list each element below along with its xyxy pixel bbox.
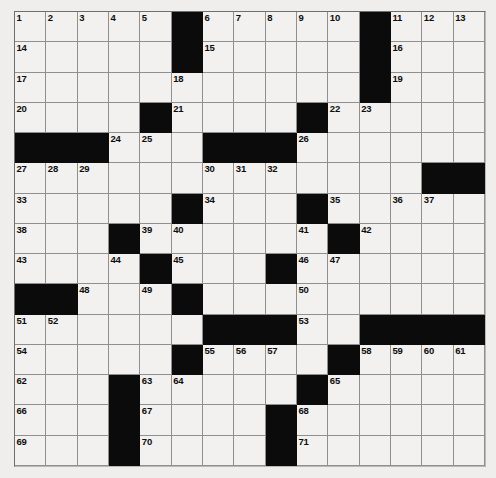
crossword-cell[interactable] bbox=[109, 163, 140, 193]
crossword-cell[interactable] bbox=[109, 73, 140, 103]
crossword-cell[interactable] bbox=[78, 42, 109, 72]
crossword-cell[interactable] bbox=[328, 315, 359, 345]
crossword-cell[interactable] bbox=[203, 254, 234, 284]
crossword-cell[interactable] bbox=[391, 284, 422, 314]
crossword-cell[interactable] bbox=[328, 42, 359, 72]
crossword-cell[interactable]: 60 bbox=[422, 345, 453, 375]
crossword-cell[interactable]: 20 bbox=[15, 103, 46, 133]
crossword-cell[interactable]: 28 bbox=[46, 163, 77, 193]
crossword-cell[interactable] bbox=[78, 345, 109, 375]
crossword-cell[interactable]: 8 bbox=[266, 12, 297, 42]
crossword-cell[interactable] bbox=[109, 42, 140, 72]
crossword-cell[interactable] bbox=[266, 194, 297, 224]
crossword-cell[interactable]: 68 bbox=[297, 405, 328, 435]
crossword-cell[interactable] bbox=[266, 103, 297, 133]
crossword-cell[interactable]: 16 bbox=[391, 42, 422, 72]
crossword-cell[interactable] bbox=[297, 163, 328, 193]
crossword-cell[interactable] bbox=[454, 284, 485, 314]
crossword-cell[interactable] bbox=[46, 103, 77, 133]
crossword-cell[interactable]: 25 bbox=[140, 133, 171, 163]
crossword-cell[interactable] bbox=[78, 194, 109, 224]
crossword-cell[interactable]: 27 bbox=[15, 163, 46, 193]
crossword-cell[interactable]: 18 bbox=[172, 73, 203, 103]
crossword-cell[interactable]: 35 bbox=[328, 194, 359, 224]
crossword-cell[interactable]: 30 bbox=[203, 163, 234, 193]
crossword-cell[interactable] bbox=[78, 375, 109, 405]
crossword-cell[interactable] bbox=[422, 375, 453, 405]
crossword-cell[interactable] bbox=[328, 163, 359, 193]
crossword-cell[interactable] bbox=[360, 254, 391, 284]
crossword-cell[interactable] bbox=[172, 163, 203, 193]
crossword-cell[interactable] bbox=[109, 194, 140, 224]
crossword-cell[interactable] bbox=[391, 103, 422, 133]
crossword-cell[interactable] bbox=[234, 42, 265, 72]
crossword-cell[interactable]: 26 bbox=[297, 133, 328, 163]
crossword-cell[interactable]: 14 bbox=[15, 42, 46, 72]
crossword-cell[interactable]: 3 bbox=[78, 12, 109, 42]
crossword-cell[interactable] bbox=[422, 284, 453, 314]
crossword-cell[interactable] bbox=[46, 194, 77, 224]
crossword-cell[interactable] bbox=[234, 284, 265, 314]
crossword-cell[interactable] bbox=[360, 284, 391, 314]
crossword-cell[interactable]: 47 bbox=[328, 254, 359, 284]
crossword-cell[interactable] bbox=[78, 254, 109, 284]
crossword-cell[interactable] bbox=[422, 254, 453, 284]
crossword-cell[interactable] bbox=[234, 254, 265, 284]
crossword-cell[interactable]: 32 bbox=[266, 163, 297, 193]
crossword-cell[interactable] bbox=[46, 345, 77, 375]
crossword-cell[interactable]: 71 bbox=[297, 436, 328, 466]
crossword-cell[interactable] bbox=[328, 436, 359, 466]
crossword-cell[interactable]: 51 bbox=[15, 315, 46, 345]
crossword-cell[interactable] bbox=[297, 73, 328, 103]
crossword-cell[interactable] bbox=[172, 436, 203, 466]
crossword-cell[interactable] bbox=[454, 375, 485, 405]
crossword-cell[interactable]: 63 bbox=[140, 375, 171, 405]
crossword-cell[interactable] bbox=[172, 315, 203, 345]
crossword-cell[interactable] bbox=[203, 103, 234, 133]
crossword-cell[interactable] bbox=[391, 375, 422, 405]
crossword-cell[interactable] bbox=[454, 224, 485, 254]
crossword-cell[interactable] bbox=[203, 375, 234, 405]
crossword-cell[interactable] bbox=[203, 405, 234, 435]
crossword-cell[interactable] bbox=[391, 436, 422, 466]
crossword-cell[interactable] bbox=[360, 405, 391, 435]
crossword-cell[interactable]: 10 bbox=[328, 12, 359, 42]
crossword-cell[interactable] bbox=[140, 73, 171, 103]
crossword-cell[interactable]: 5 bbox=[140, 12, 171, 42]
crossword-cell[interactable] bbox=[422, 133, 453, 163]
crossword-cell[interactable] bbox=[422, 224, 453, 254]
crossword-cell[interactable] bbox=[234, 405, 265, 435]
crossword-cell[interactable]: 29 bbox=[78, 163, 109, 193]
crossword-cell[interactable]: 42 bbox=[360, 224, 391, 254]
crossword-cell[interactable]: 50 bbox=[297, 284, 328, 314]
crossword-cell[interactable] bbox=[422, 73, 453, 103]
crossword-cell[interactable]: 6 bbox=[203, 12, 234, 42]
crossword-cell[interactable] bbox=[328, 73, 359, 103]
crossword-cell[interactable] bbox=[140, 345, 171, 375]
crossword-cell[interactable] bbox=[360, 436, 391, 466]
crossword-cell[interactable] bbox=[297, 345, 328, 375]
crossword-cell[interactable] bbox=[234, 194, 265, 224]
crossword-cell[interactable] bbox=[454, 103, 485, 133]
crossword-cell[interactable]: 23 bbox=[360, 103, 391, 133]
crossword-cell[interactable] bbox=[78, 436, 109, 466]
crossword-cell[interactable] bbox=[46, 436, 77, 466]
crossword-cell[interactable] bbox=[234, 103, 265, 133]
crossword-cell[interactable]: 43 bbox=[15, 254, 46, 284]
crossword-cell[interactable] bbox=[203, 436, 234, 466]
crossword-cell[interactable] bbox=[46, 224, 77, 254]
crossword-cell[interactable]: 64 bbox=[172, 375, 203, 405]
crossword-cell[interactable]: 70 bbox=[140, 436, 171, 466]
crossword-cell[interactable]: 65 bbox=[328, 375, 359, 405]
crossword-cell[interactable]: 38 bbox=[15, 224, 46, 254]
crossword-cell[interactable]: 54 bbox=[15, 345, 46, 375]
crossword-cell[interactable]: 24 bbox=[109, 133, 140, 163]
crossword-cell[interactable]: 1 bbox=[15, 12, 46, 42]
crossword-cell[interactable] bbox=[422, 42, 453, 72]
crossword-cell[interactable]: 48 bbox=[78, 284, 109, 314]
crossword-cell[interactable]: 49 bbox=[140, 284, 171, 314]
crossword-cell[interactable]: 41 bbox=[297, 224, 328, 254]
crossword-cell[interactable]: 34 bbox=[203, 194, 234, 224]
crossword-cell[interactable] bbox=[234, 224, 265, 254]
crossword-cell[interactable] bbox=[391, 133, 422, 163]
